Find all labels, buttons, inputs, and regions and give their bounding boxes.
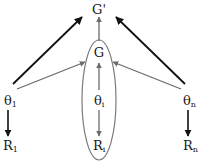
node-r-1-sub: 1 (13, 145, 18, 154)
arrow-thetan-to-gprime (116, 17, 185, 84)
node-theta-1: θ1 (4, 93, 17, 109)
arrow-theta1-to-g (17, 62, 85, 89)
arrow-thetan-to-g (113, 62, 181, 89)
node-r-i-sub: i (103, 145, 106, 154)
node-theta-n-sub: n (191, 100, 196, 109)
node-theta-1-base: θ (4, 93, 12, 108)
arrow-theta1-to-gprime (13, 17, 82, 84)
node-r-n-sub: n (193, 145, 198, 154)
node-theta-1-sub: 1 (12, 100, 17, 109)
node-theta-i: θi (94, 93, 105, 109)
node-gprime: G' (92, 2, 106, 17)
node-theta-i-sub: i (102, 100, 105, 109)
diagram-canvas: G' G θ1 θi θn R1 Ri Rn (0, 0, 198, 161)
node-theta-n-base: θ (183, 93, 191, 108)
node-g: G (94, 45, 104, 60)
node-theta-i-base: θ (94, 93, 102, 108)
node-theta-n: θn (183, 93, 196, 109)
node-r-i: Ri (93, 138, 106, 154)
node-r-1: R1 (3, 138, 18, 154)
node-r-n: Rn (183, 138, 198, 154)
